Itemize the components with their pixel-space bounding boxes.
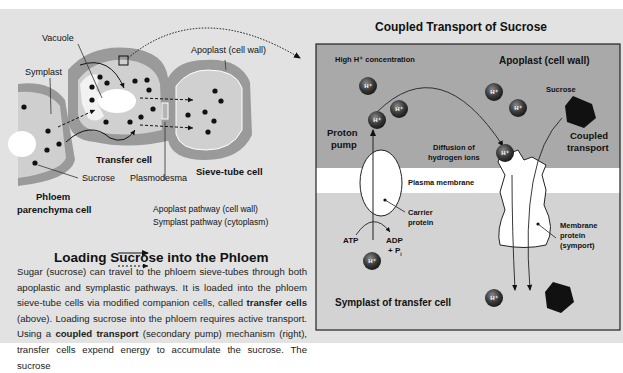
carrier-protein-label-2: protein: [408, 219, 433, 227]
parenchyma-vacuole: [8, 131, 36, 157]
transfer-cell-label: Transfer cell: [96, 155, 152, 165]
svg-text:H⁺: H⁺: [490, 295, 497, 301]
high-h-label: High H⁺ concentration: [335, 56, 415, 64]
apoplast-region-label: Apoplast (cell wall): [499, 56, 590, 66]
pi-label: + Pi: [388, 247, 402, 257]
right-diagram-title: Coupled Transport of Sucrose: [375, 21, 547, 33]
membrane-protein-label-3: (symport): [560, 242, 595, 250]
parenchyma-cell-label: parenchyma cell: [17, 205, 91, 215]
atp-label: ATP: [343, 237, 358, 245]
proton-pump-label-2: pump: [331, 140, 357, 150]
diffusion-label-1: Diffusion of: [433, 144, 475, 152]
proton-pump-label-1: Proton: [327, 128, 358, 138]
sucrose-region-label: Sucrose: [546, 86, 576, 94]
vacuole: [98, 89, 136, 113]
term-transfer-cells: transfer cells: [247, 297, 307, 308]
vacuole-label: Vacuole: [42, 34, 74, 43]
term-coupled-transport: coupled transport: [55, 328, 138, 339]
symplast-region-label: Symplast of transfer cell: [335, 298, 451, 308]
sucrose-label: Sucrose: [82, 174, 115, 183]
membrane-protein-symport: [498, 148, 551, 248]
plasma-membrane-label: Plasma membrane: [408, 179, 474, 187]
article-paragraph: Sugar (sucrose) can travel to the phloem…: [17, 264, 307, 373]
sieve-tube-cell-label: Sieve-tube cell: [196, 167, 263, 177]
apoplast-label: Apoplast (cell wall): [191, 46, 266, 55]
plasmodesma-label: Plasmodesma: [130, 174, 187, 183]
svg-text:H⁺: H⁺: [395, 106, 402, 112]
sieve-tube-symplast: [176, 70, 242, 150]
phloem-label: Phloem: [36, 192, 70, 202]
svg-text:H⁺: H⁺: [490, 89, 497, 95]
legend-apoplast-label: Apoplast pathway (cell wall): [153, 205, 258, 214]
coupled-transport-label-1: Coupled: [570, 131, 608, 141]
adp-label: ADP: [386, 237, 403, 245]
svg-text:H⁺: H⁺: [368, 258, 375, 264]
symplast-region: [316, 193, 620, 330]
diffusion-label-2: hydrogen ions: [428, 154, 480, 162]
svg-text:H⁺: H⁺: [364, 83, 371, 89]
coupled-transport-label-2: transport: [567, 143, 609, 153]
article-title: Loading Sucrose into the Phloem: [54, 251, 269, 265]
plasmodesma-pore: [162, 103, 168, 119]
svg-text:H⁺: H⁺: [514, 105, 521, 111]
symplast-label: Symplast: [25, 68, 62, 77]
svg-text:H⁺: H⁺: [501, 150, 508, 156]
svg-text:H⁺: H⁺: [373, 117, 380, 123]
membrane-protein-label-2: protein: [560, 232, 585, 240]
legend-symplast-label: Symplast pathway (cytoplasm): [153, 218, 268, 227]
carrier-protein-label-1: Carrier: [408, 209, 433, 217]
membrane-protein-label-1: Membrane: [560, 222, 598, 230]
